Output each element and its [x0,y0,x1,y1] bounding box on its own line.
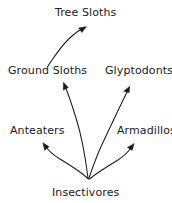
node-label-armadillos: Armadillos [117,125,172,137]
phylogenetic-tree-diagram: Tree Sloths Ground Sloths Glyptodonts An… [0,0,172,203]
node-label-insectivores: Insectivores [52,187,119,199]
node-label-anteaters: Anteaters [10,125,65,137]
edge-ground-sloths-to-tree-sloths [48,27,87,66]
tree-branches-svg [0,0,172,203]
edge-insectivores-to-armadillos [90,144,135,180]
edge-insectivores-to-anteaters [43,143,89,179]
node-label-tree-sloths: Tree Sloths [55,7,116,19]
node-label-glyptodonts: Glyptodonts [105,65,172,77]
node-label-ground-sloths: Ground Sloths [8,65,87,77]
